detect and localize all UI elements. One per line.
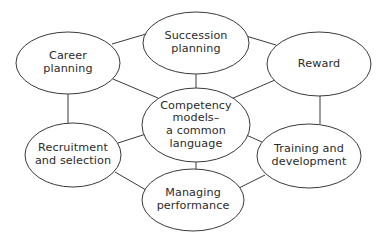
edge-managing-recruitment bbox=[115, 172, 146, 190]
node-career-shape bbox=[16, 32, 120, 94]
edge-center-recruitment bbox=[118, 134, 146, 143]
edge-center-reward bbox=[231, 80, 275, 99]
edge-training-managing bbox=[239, 175, 265, 188]
node-succession-shape bbox=[143, 12, 249, 74]
competency-diagram bbox=[0, 0, 390, 245]
edge-center-career bbox=[113, 79, 158, 98]
node-training-shape bbox=[257, 124, 361, 188]
node-reward-shape bbox=[267, 32, 371, 96]
node-recruitment-shape bbox=[25, 123, 121, 187]
edge-succession-reward bbox=[246, 36, 276, 45]
nodes-layer bbox=[16, 12, 371, 231]
node-competency-shape bbox=[142, 88, 250, 162]
node-managing-shape bbox=[142, 169, 244, 231]
edge-career-succession bbox=[112, 34, 146, 44]
